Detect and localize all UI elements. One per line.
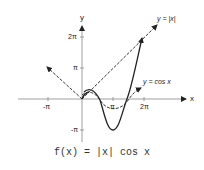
tick-label-2pi-x: 2π — [140, 103, 149, 110]
y-axis-label: y — [80, 14, 84, 22]
tick-label-pi-y: π — [73, 64, 78, 71]
graph-canvas — [0, 0, 204, 170]
tick-label-pi-x: π — [110, 103, 115, 110]
tick-label-negpi-y: -π — [71, 126, 78, 133]
x-axis-label: x — [190, 95, 194, 103]
function-caption: f(x) = |x| cos x — [0, 147, 204, 158]
tick-label-2pi-y: 2π — [68, 33, 77, 40]
abs-line-right — [82, 25, 157, 99]
axis-ticks — [48, 37, 144, 130]
cos-curve-label: y = cos x — [143, 78, 171, 85]
tick-label-negpi-x: -π — [43, 103, 50, 110]
f-curve — [84, 38, 142, 130]
abs-line-left — [47, 67, 82, 99]
abs-curve-label: y = |x| — [157, 15, 176, 22]
